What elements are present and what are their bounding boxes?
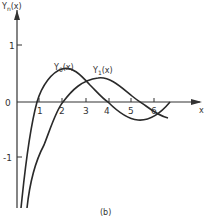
bessel-chart: 1 0 -1 1 2 3 4 5 6 x Yn(x) Y0(x) Y1(x) (…	[0, 0, 207, 217]
xtick-3: 3	[83, 106, 89, 116]
y-axis-arrow	[14, 10, 20, 20]
caption: (b)	[100, 208, 111, 217]
y0-curve	[21, 68, 170, 208]
x-axis-arrow	[191, 99, 202, 105]
y0-label: Y0(x)	[53, 63, 74, 73]
xtick-1: 1	[37, 106, 43, 116]
y1-curve	[27, 78, 168, 208]
x-axis-label: x	[199, 106, 204, 115]
xtick-5: 5	[128, 106, 134, 116]
ytick-1: 1	[9, 41, 15, 51]
ytick-0: 0	[5, 98, 11, 108]
xtick-4: 4	[104, 106, 110, 116]
y-axis-label: Yn(x)	[1, 2, 22, 12]
ytick-neg1: -1	[3, 153, 12, 163]
y1-label: Y1(x)	[92, 66, 113, 76]
